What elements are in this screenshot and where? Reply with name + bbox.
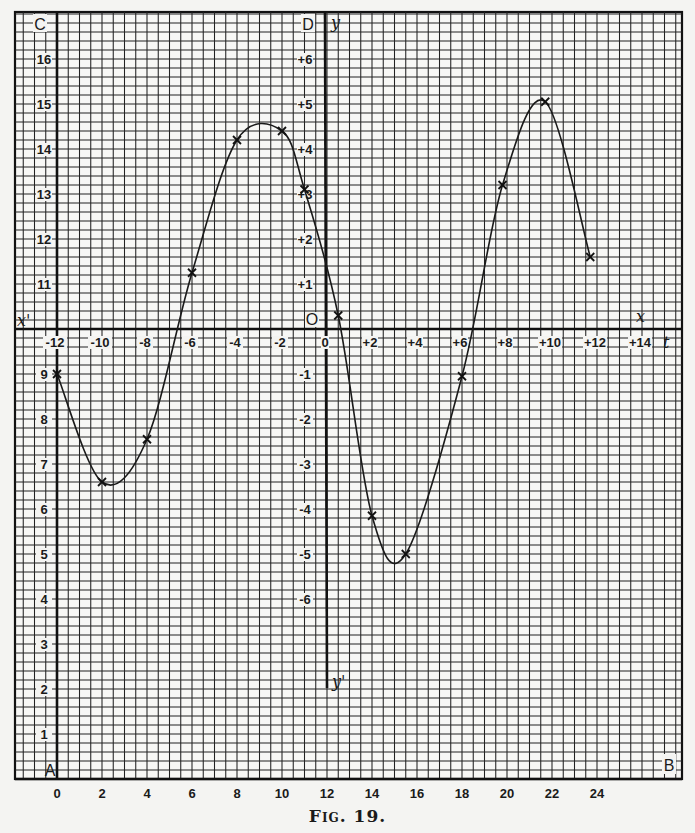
svg-text:5: 5	[40, 547, 47, 562]
svg-text:9: 9	[40, 367, 47, 382]
svg-text:2: 2	[98, 786, 105, 801]
svg-text:8: 8	[40, 412, 47, 427]
svg-text:A: A	[45, 762, 56, 779]
svg-text:-6: -6	[299, 592, 311, 607]
svg-text:13: 13	[37, 187, 51, 202]
svg-text:+8: +8	[498, 335, 513, 350]
svg-text:18: 18	[455, 786, 469, 801]
svg-text:+4: +4	[298, 142, 314, 157]
svg-text:+2: +2	[298, 232, 313, 247]
graph-paper-chart: 0246810121416182022241234567891112131415…	[0, 0, 695, 833]
svg-text:D: D	[302, 16, 314, 33]
svg-text:0: 0	[321, 335, 328, 350]
svg-text:12: 12	[37, 232, 51, 247]
svg-text:6: 6	[40, 502, 47, 517]
svg-text:-6: -6	[184, 335, 196, 350]
svg-text:+10: +10	[539, 335, 561, 350]
svg-text:15: 15	[37, 97, 51, 112]
svg-text:14: 14	[37, 142, 52, 157]
svg-text:+14: +14	[629, 335, 652, 350]
svg-text:x': x'	[17, 311, 30, 330]
svg-text:2: 2	[40, 682, 47, 697]
svg-text:y: y	[330, 13, 341, 32]
svg-text:0: 0	[53, 786, 60, 801]
svg-text:+12: +12	[584, 335, 606, 350]
svg-text:-3: -3	[299, 457, 311, 472]
svg-text:-2: -2	[299, 412, 311, 427]
svg-text:B: B	[664, 757, 675, 774]
svg-text:C: C	[34, 16, 46, 33]
svg-text:t: t	[663, 333, 670, 352]
svg-text:1: 1	[40, 727, 47, 742]
svg-text:+6: +6	[453, 335, 468, 350]
svg-text:20: 20	[500, 786, 514, 801]
svg-text:+6: +6	[298, 52, 313, 67]
svg-text:14: 14	[365, 786, 380, 801]
svg-text:4: 4	[40, 592, 48, 607]
svg-text:O: O	[306, 311, 318, 328]
svg-text:-1: -1	[299, 367, 311, 382]
svg-text:y': y'	[331, 672, 345, 691]
svg-text:+4: +4	[408, 335, 424, 350]
svg-text:-12: -12	[46, 335, 65, 350]
svg-text:22: 22	[545, 786, 559, 801]
svg-text:+1: +1	[298, 277, 313, 292]
svg-text:-8: -8	[139, 335, 151, 350]
svg-text:16: 16	[37, 52, 51, 67]
svg-text:8: 8	[233, 786, 240, 801]
svg-text:7: 7	[40, 457, 47, 472]
svg-text:3: 3	[40, 637, 47, 652]
svg-text:-4: -4	[299, 502, 311, 517]
svg-text:11: 11	[37, 277, 51, 292]
svg-text:x: x	[636, 307, 645, 326]
svg-text:-10: -10	[91, 335, 110, 350]
grid-lines	[15, 12, 682, 779]
svg-text:-4: -4	[229, 335, 241, 350]
svg-text:-5: -5	[299, 547, 311, 562]
svg-text:16: 16	[410, 786, 424, 801]
svg-text:-2: -2	[274, 335, 286, 350]
svg-text:10: 10	[275, 786, 289, 801]
svg-text:12: 12	[320, 786, 334, 801]
svg-text:24: 24	[590, 786, 605, 801]
svg-text:6: 6	[188, 786, 195, 801]
svg-text:4: 4	[143, 786, 151, 801]
svg-text:+2: +2	[363, 335, 378, 350]
svg-text:+5: +5	[298, 97, 313, 112]
figure-caption: Fig. 19.	[0, 806, 695, 826]
